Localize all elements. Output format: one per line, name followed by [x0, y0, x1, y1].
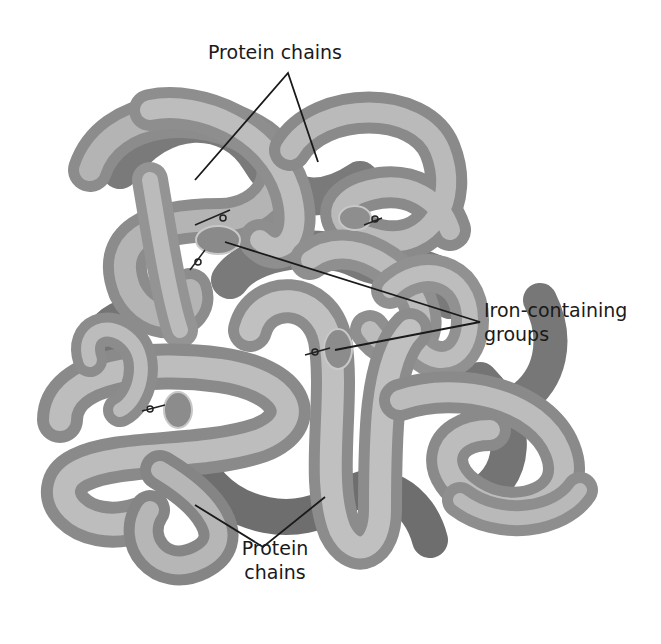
label-iron-containing-groups: Iron-containing groups: [484, 298, 627, 346]
label-bottom-line2: chains: [220, 560, 330, 584]
label-protein-chains-bottom: Protein chains: [220, 536, 330, 584]
label-protein-chains-top: Protein chains: [208, 40, 342, 64]
label-bottom-line1: Protein: [220, 536, 330, 560]
label-iron-line1: Iron-containing: [484, 298, 627, 322]
label-iron-line2: groups: [484, 322, 627, 346]
